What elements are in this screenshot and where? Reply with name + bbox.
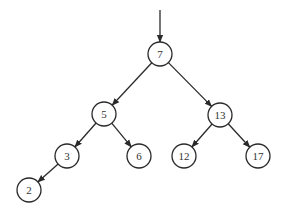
tree-node-17: 17: [246, 144, 270, 168]
tree-node-2: 2: [17, 178, 41, 202]
tree-node-5: 5: [92, 102, 116, 126]
node-label: 6: [136, 150, 142, 162]
edge-arrow-5-to-6: [112, 123, 132, 147]
binary-tree-diagram: 75133612172: [0, 0, 286, 216]
edge-arrow-13-to-17: [228, 124, 250, 147]
node-label: 2: [26, 184, 32, 196]
node-label: 12: [179, 150, 190, 162]
node-label: 5: [101, 108, 107, 120]
node-label: 3: [64, 150, 70, 162]
tree-node-6: 6: [127, 144, 151, 168]
edge-arrow-13-to-12: [192, 124, 212, 147]
tree-node-7: 7: [148, 42, 172, 66]
tree-node-3: 3: [55, 144, 79, 168]
edge-arrow-3-to-2: [38, 164, 58, 182]
node-label: 13: [215, 109, 227, 121]
edge-arrow-7-to-13: [168, 63, 211, 107]
node-label: 17: [253, 150, 265, 162]
edge-arrow-7-to-5: [112, 63, 152, 105]
tree-node-12: 12: [172, 144, 196, 168]
node-label: 7: [157, 48, 163, 60]
nodes-layer: 75133612172: [17, 42, 270, 202]
edge-arrow-5-to-3: [75, 123, 96, 147]
tree-node-13: 13: [208, 103, 232, 127]
